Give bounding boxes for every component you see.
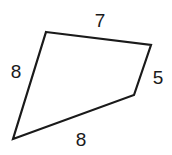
side-label-bottom: 8 — [76, 130, 87, 149]
quadrilateral-outline — [13, 32, 151, 139]
side-label-right: 5 — [153, 68, 164, 87]
side-label-left: 8 — [11, 62, 22, 81]
geometry-figure: 7 5 8 8 — [0, 0, 172, 155]
side-label-top: 7 — [95, 11, 106, 30]
